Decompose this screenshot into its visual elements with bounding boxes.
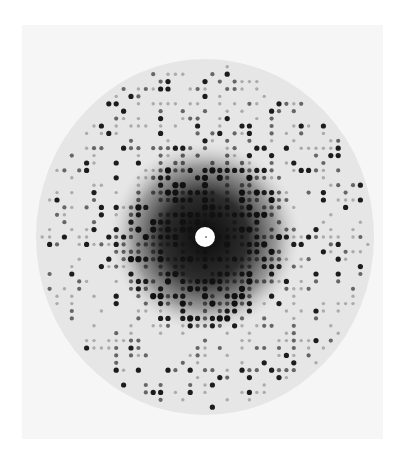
diffraction-pattern: [0, 0, 403, 464]
